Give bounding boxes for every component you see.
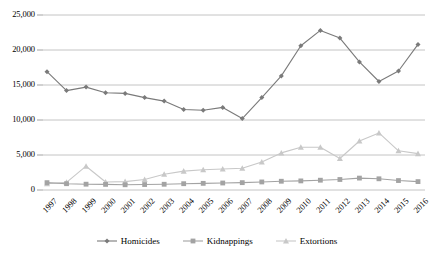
y-axis-tick-label: 25,000 [12, 9, 35, 19]
data-point-marker [337, 177, 342, 182]
data-point-marker [298, 179, 303, 184]
data-point-marker [220, 181, 225, 186]
series-line [47, 133, 418, 184]
data-point-marker [259, 159, 265, 165]
data-point-marker [356, 138, 362, 144]
y-axis-tick-label: 5,000 [16, 149, 35, 159]
data-point-marker [396, 178, 401, 183]
y-axis-tick-label: 20,000 [12, 44, 35, 54]
data-point-marker [103, 182, 108, 187]
data-point-marker [201, 181, 206, 186]
legend-marker-square-icon [182, 236, 204, 246]
data-point-marker [142, 182, 147, 187]
legend-marker-diamond-icon [96, 236, 118, 246]
y-axis-tick-label: 15,000 [12, 79, 35, 89]
series-layer [44, 28, 421, 187]
data-point-marker [181, 107, 186, 112]
data-point-marker [123, 91, 128, 96]
data-point-marker [201, 108, 206, 113]
data-point-marker [103, 90, 108, 95]
series-line [47, 30, 418, 118]
gridlines [43, 15, 425, 190]
legend-label: Kidnappings [207, 236, 253, 246]
data-point-marker [45, 180, 50, 185]
legend-marker-triangle-icon [275, 236, 297, 246]
data-point-marker [181, 181, 186, 186]
data-point-marker [357, 176, 362, 181]
data-point-marker [220, 105, 225, 110]
data-point-marker [123, 182, 128, 187]
y-axis-tick-marks [37, 15, 43, 190]
legend-item-extortions[interactable]: Extortions [275, 236, 338, 246]
data-point-marker [377, 176, 382, 181]
data-point-marker [240, 180, 245, 185]
data-point-marker [416, 179, 421, 184]
chart-legend: HomicidesKidnappingsExtortions [0, 236, 433, 246]
data-point-marker [259, 180, 264, 185]
line-chart: 05,00010,00015,00020,00025,000 199719981… [0, 0, 433, 259]
data-point-marker [279, 179, 284, 184]
data-point-marker [83, 163, 89, 169]
legend-label: Extortions [300, 236, 338, 246]
legend-item-kidnappings[interactable]: Kidnappings [182, 236, 253, 246]
series-kidnappings [45, 176, 421, 187]
y-axis-tick-label: 0 [31, 184, 35, 194]
data-point-marker [162, 99, 167, 104]
legend-item-homicides[interactable]: Homicides [96, 236, 160, 246]
data-point-marker [84, 182, 89, 187]
data-point-marker [376, 130, 382, 136]
data-point-marker [162, 182, 167, 187]
data-point-marker [64, 181, 69, 186]
plot-area [0, 0, 433, 259]
data-point-marker [190, 239, 195, 244]
data-point-marker [142, 95, 147, 100]
data-point-marker [104, 239, 109, 244]
y-axis-tick-label: 10,000 [12, 114, 35, 124]
series-homicides [45, 28, 421, 121]
data-point-marker [318, 178, 323, 183]
legend-label: Homicides [121, 236, 160, 246]
